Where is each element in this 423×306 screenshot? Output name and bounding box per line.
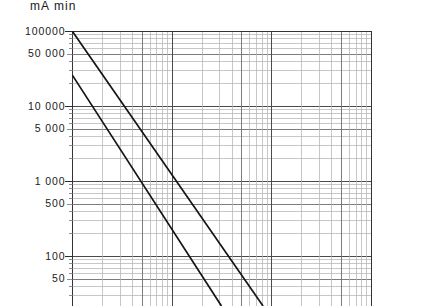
y-tick-label: 50 000 <box>28 47 66 59</box>
y-tick-label: 10 000 <box>28 100 66 112</box>
y-tick-label: 5 000 <box>35 122 66 134</box>
log-log-chart: mA min 10000050 00010 0005 0001 00050010… <box>0 0 423 306</box>
y-tick-label: 500 <box>45 197 65 209</box>
y-tick-label: 1 000 <box>35 175 66 187</box>
y-tick-label: 100000 <box>25 25 65 37</box>
y-tick-label: 100 <box>45 250 65 262</box>
y-tick-label: 50 <box>52 272 65 284</box>
